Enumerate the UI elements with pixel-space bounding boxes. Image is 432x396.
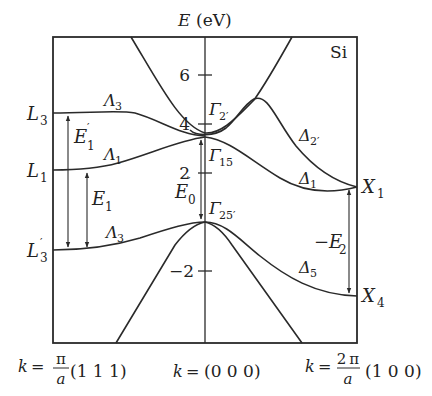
svg-text:2′: 2′ bbox=[219, 110, 229, 123]
svg-text:2′: 2′ bbox=[310, 135, 320, 148]
axis-title-symbol: E bbox=[177, 10, 191, 30]
svg-text:Λ: Λ bbox=[102, 91, 116, 110]
svg-text:k =: k = bbox=[305, 357, 335, 376]
svg-text:1: 1 bbox=[377, 187, 385, 201]
svg-text:Λ: Λ bbox=[102, 145, 116, 164]
label-delta2prime: Δ 2′ bbox=[298, 126, 320, 148]
svg-text:′: ′ bbox=[87, 121, 90, 134]
svg-text:E: E bbox=[73, 126, 87, 147]
svg-text:3: 3 bbox=[40, 114, 48, 128]
svg-text:25′: 25′ bbox=[219, 209, 236, 222]
svg-text:Δ: Δ bbox=[298, 258, 311, 277]
material-label: Si bbox=[330, 42, 348, 62]
k-label-X: k = 2 π a (1 0 0) bbox=[305, 350, 422, 388]
svg-text:′: ′ bbox=[40, 236, 43, 249]
svg-text:2: 2 bbox=[339, 243, 347, 257]
svg-text:E: E bbox=[174, 181, 188, 202]
svg-text:X: X bbox=[360, 176, 376, 197]
label-X4: X 4 bbox=[360, 285, 385, 310]
svg-text:3: 3 bbox=[117, 232, 124, 245]
svg-text:(1 1 1): (1 1 1) bbox=[70, 361, 127, 381]
svg-text:1: 1 bbox=[105, 200, 113, 214]
svg-text:3: 3 bbox=[40, 251, 48, 265]
label-minus-E2: −E 2 bbox=[314, 231, 347, 257]
svg-text:X: X bbox=[360, 285, 376, 306]
tick-label-minus2: −2 bbox=[169, 261, 194, 281]
svg-text:L: L bbox=[26, 160, 39, 181]
svg-text:L: L bbox=[26, 240, 39, 261]
svg-text:′: ′ bbox=[188, 175, 191, 188]
label-delta1: Δ 1 bbox=[298, 169, 317, 191]
svg-text:π: π bbox=[56, 350, 66, 368]
label-E1: E 1 bbox=[91, 188, 113, 214]
axis-title-unit: (eV) bbox=[196, 10, 232, 30]
svg-text:Λ: Λ bbox=[104, 223, 118, 242]
svg-text:4: 4 bbox=[377, 296, 385, 310]
svg-text:0: 0 bbox=[188, 193, 196, 207]
svg-text:2 π: 2 π bbox=[337, 350, 360, 368]
svg-text:1: 1 bbox=[310, 178, 317, 191]
label-gamma-25prime: Γ 25′ bbox=[208, 198, 236, 222]
svg-text:(0 0 0): (0 0 0) bbox=[204, 361, 261, 381]
svg-text:k =: k = bbox=[173, 362, 203, 381]
band-structure-diagram: 6 4 2 −2 E (eV) Si L 3 L 1 bbox=[0, 0, 432, 396]
tick-label-6: 6 bbox=[179, 65, 190, 85]
svg-text:Δ: Δ bbox=[298, 126, 311, 145]
label-lambda1: Λ 1 bbox=[102, 145, 122, 167]
svg-text:1: 1 bbox=[115, 154, 122, 167]
label-L3: L 3 bbox=[26, 103, 48, 128]
svg-text:a: a bbox=[344, 370, 353, 388]
svg-text:5: 5 bbox=[310, 267, 317, 280]
svg-text:15: 15 bbox=[219, 156, 233, 169]
svg-text:−E: −E bbox=[314, 231, 342, 252]
k-label-gamma: k = (0 0 0) bbox=[173, 361, 261, 381]
svg-text:1: 1 bbox=[87, 139, 95, 153]
label-X1: X 1 bbox=[360, 176, 385, 201]
svg-text:(1 0 0): (1 0 0) bbox=[365, 361, 422, 381]
label-delta5: Δ 5 bbox=[298, 258, 317, 280]
label-gamma-2prime: Γ 2′ bbox=[208, 99, 229, 123]
svg-text:1: 1 bbox=[40, 171, 48, 185]
k-label-L: k = π a (1 1 1) bbox=[18, 350, 127, 388]
label-gamma-15: Γ 15 bbox=[208, 145, 233, 169]
label-E1-prime: E 1 ′ bbox=[73, 121, 95, 153]
label-lambda3-lower: Λ 3 bbox=[104, 223, 124, 245]
label-L3-prime: L 3 ′ bbox=[26, 236, 48, 265]
label-L1: L 1 bbox=[26, 160, 48, 185]
svg-text:3: 3 bbox=[115, 100, 122, 113]
svg-text:Δ: Δ bbox=[298, 169, 311, 188]
svg-text:a: a bbox=[57, 370, 66, 388]
svg-text:E: E bbox=[91, 188, 105, 209]
svg-text:L: L bbox=[26, 103, 39, 124]
label-lambda3-upper: Λ 3 bbox=[102, 91, 122, 113]
svg-text:k =: k = bbox=[18, 357, 48, 376]
